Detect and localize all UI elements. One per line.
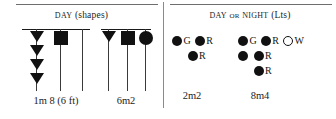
- light-cell: R: [261, 34, 283, 47]
- day-group-2: 6m2: [101, 29, 151, 91]
- light-row: R: [172, 49, 210, 62]
- light-dot-red: [188, 51, 198, 61]
- shape-triangle-down: [30, 45, 44, 56]
- shape-triangle-down: [102, 31, 116, 42]
- light-dot-green: [238, 36, 248, 46]
- light-row: G R W: [238, 34, 308, 47]
- panel-night-title-conn: or: [229, 10, 239, 20]
- light-letter: R: [265, 66, 272, 76]
- light-dot-red: [261, 36, 271, 46]
- light-cell: G: [172, 34, 195, 47]
- light-cell: G: [238, 34, 261, 47]
- mast-line: [82, 29, 83, 91]
- panel-day-title-rest: (shapes): [75, 10, 108, 20]
- light-letter: W: [294, 36, 303, 46]
- panel-night: Day or Night (Lts) G R: [164, 0, 336, 119]
- shape-triangle-down: [30, 73, 44, 84]
- panel-night-title-word-day: Day: [209, 8, 227, 20]
- shape-circle: [139, 31, 153, 45]
- night-group-2: G R W R: [238, 34, 334, 92]
- shape-square: [121, 31, 135, 45]
- light-letter: G: [250, 36, 257, 46]
- light-dot-absent: [172, 51, 182, 61]
- light-cell: [172, 49, 188, 62]
- night-group-1: G R R 2m2: [172, 34, 242, 78]
- light-dot-absent: [238, 66, 248, 76]
- panel-night-title: Day or Night (Lts): [164, 8, 336, 20]
- light-cell: W: [283, 34, 308, 47]
- light-letter: G: [184, 36, 191, 46]
- light-letter: R: [206, 36, 213, 46]
- light-dot-white: [283, 36, 293, 46]
- light-cell: R: [188, 49, 210, 62]
- panel-day-title: Day (shapes): [0, 8, 163, 20]
- light-dot-red: [254, 51, 264, 61]
- light-row: R: [238, 64, 276, 77]
- light-dot-unlabeled: [238, 51, 248, 61]
- light-row: R: [238, 49, 276, 62]
- light-cell: [238, 64, 254, 77]
- shape-triangle-down: [30, 59, 44, 70]
- light-dot-green: [172, 36, 182, 46]
- panel-day-title-word: Day: [55, 8, 73, 20]
- light-cell: R: [254, 49, 276, 62]
- night-group-2-label: 8m4: [230, 90, 290, 101]
- signal-chart: Day (shapes) 1m 8 (6 ft) 6m2: [0, 0, 336, 119]
- panel-night-title-word-night: Night: [242, 8, 268, 20]
- shape-square: [54, 31, 68, 45]
- shape-triangle-down: [30, 31, 44, 42]
- light-cell: R: [195, 34, 217, 47]
- light-letter: R: [265, 51, 272, 61]
- light-letter: R: [272, 36, 279, 46]
- panel-day: Day (shapes) 1m 8 (6 ft) 6m2: [0, 0, 163, 119]
- night-group-1-label: 2m2: [162, 90, 222, 101]
- day-group-2-label: 6m2: [91, 95, 161, 106]
- light-dot-red: [254, 66, 264, 76]
- light-letter: R: [199, 51, 206, 61]
- light-cell: [238, 49, 254, 62]
- light-dot-red: [195, 36, 205, 46]
- panel-night-title-rest: (Lts): [271, 10, 290, 20]
- day-group-1: 1m 8 (6 ft): [22, 29, 90, 91]
- light-row: G R: [172, 34, 217, 47]
- light-cell: R: [254, 64, 276, 77]
